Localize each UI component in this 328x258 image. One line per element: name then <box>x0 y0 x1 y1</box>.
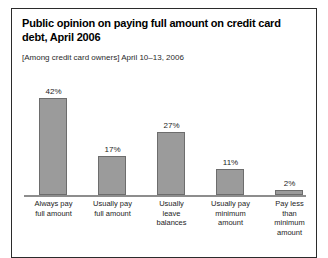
bar-column-0: 42% <box>24 79 83 195</box>
bar-group-0: 42% Always pay full amount <box>24 79 83 195</box>
bar-category-label-0: Always pay full amount <box>24 199 83 218</box>
bar-value-label-0: 42% <box>24 87 83 96</box>
bar-group-3: 11% Usually pay minimum amount <box>201 79 260 195</box>
plot-area: 42% Always pay full amount 17% Usually p… <box>12 79 318 249</box>
bar-rect-1 <box>98 156 126 195</box>
bar-category-label-2: Usually leave balances <box>142 199 201 228</box>
bar-column-1: 17% <box>83 79 142 195</box>
bar-category-label-3: Usually pay minimum amount <box>201 199 260 228</box>
chart-subtitle: [Among credit card owners] April 10–13, … <box>22 53 308 63</box>
bar-column-2: 27% <box>142 79 201 195</box>
bar-category-label-4: Pay less than minimum amount <box>260 199 319 237</box>
bar-column-4: 2% <box>260 79 319 195</box>
bar-rect-2 <box>157 132 185 195</box>
bar-rect-0 <box>39 98 67 195</box>
bar-group-1: 17% Usually pay full amount <box>83 79 142 195</box>
bar-value-label-1: 17% <box>83 145 142 154</box>
bar-value-label-2: 27% <box>142 121 201 130</box>
bar-category-label-1: Usually pay full amount <box>83 199 142 218</box>
chart-figure-inner: Public opinion on paying full amount on … <box>12 9 316 257</box>
bar-rect-4 <box>275 190 303 195</box>
chart-title: Public opinion on paying full amount on … <box>22 17 308 44</box>
bar-group-2: 27% Usually leave balances <box>142 79 201 195</box>
bar-rect-3 <box>216 169 244 195</box>
bar-column-3: 11% <box>201 79 260 195</box>
chart-figure-frame: Public opinion on paying full amount on … <box>11 8 317 258</box>
bar-value-label-3: 11% <box>201 158 260 167</box>
bar-group-4: 2% Pay less than minimum amount <box>260 79 319 195</box>
bar-value-label-4: 2% <box>260 179 319 188</box>
x-axis-baseline <box>24 195 306 197</box>
